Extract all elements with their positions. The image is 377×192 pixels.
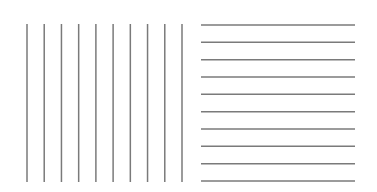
figure-svg (0, 0, 377, 192)
horizontal-lines-panel (201, 25, 355, 181)
vertical-lines-panel (27, 24, 182, 182)
line-orientation-figure (0, 0, 377, 192)
